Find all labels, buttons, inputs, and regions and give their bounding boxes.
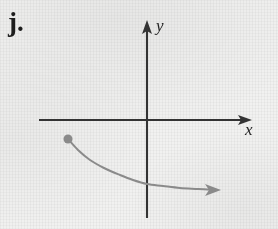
x-axis-label: x [245, 121, 253, 138]
curve-start-point [64, 135, 73, 144]
curve-path [68, 139, 215, 190]
coordinate-plot [0, 0, 278, 229]
y-axis-label: y [156, 17, 164, 34]
figure-canvas: j. y x [0, 0, 278, 229]
